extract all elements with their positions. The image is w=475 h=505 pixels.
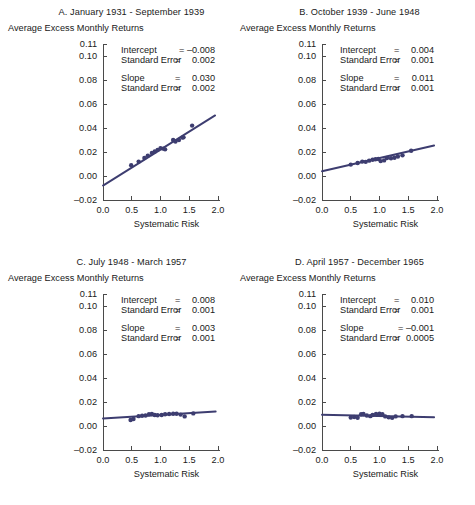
y-tick-label: 0.11 [299,39,316,49]
data-point [181,135,185,139]
annotation-equals: = [394,333,399,343]
y-tick-label: 0.06 [298,349,316,359]
annotation-value: 0.001 [192,333,215,343]
y-tick-label: 0.00 [79,171,97,181]
annotation-equals: = [175,333,180,343]
x-tick-label: 1.5 [402,205,415,215]
annotation-equals: = [394,305,399,315]
y-tick-label: –0.02 [293,195,316,205]
y-tick-label: –0.02 [74,195,97,205]
data-point [131,417,135,421]
annotation-value: 0.002 [192,83,215,93]
panel-c: C. July 1948 - March 1957 Average Excess… [0,250,237,502]
annotation-value: 0.030 [192,73,215,83]
data-point [129,163,133,167]
annotation-label: Slope [121,73,145,83]
annotation-label: Slope [340,323,364,333]
y-tick-label: 0.04 [79,373,97,383]
annotation-value: –0.008 [187,45,215,55]
annotation-value: 0.0005 [406,333,434,343]
data-point [349,162,353,166]
annotation-equals: = [175,55,180,65]
x-axis-title: Systematic Risk [134,469,200,479]
x-tick-label: 0.5 [125,455,138,465]
annotation-equals: = [394,55,399,65]
data-point [182,414,186,418]
annotation-value: 0.001 [411,305,434,315]
annotation-value: 0.001 [192,305,215,315]
y-tick-label: 0.04 [298,373,316,383]
data-point [146,153,150,157]
annotation-value: 0.008 [192,295,215,305]
annotation-label: Intercept [121,45,157,55]
annotation-equals: = [175,305,180,315]
annotation-label: Standard Error [121,83,181,93]
x-tick-label: 0.0 [316,205,329,215]
x-tick-label: 1.0 [154,205,167,215]
y-tick-label: 0.10 [298,301,316,311]
y-tick-label: 0.02 [79,397,97,407]
x-tick-label: 1.5 [183,205,196,215]
data-point [155,413,159,417]
x-tick-label: 1.0 [154,455,167,465]
data-point [191,411,195,415]
axis-spines [103,294,220,450]
annotation-equals: = [175,295,180,305]
y-tick-label: 0.06 [298,99,316,109]
data-point [163,147,167,151]
x-tick-label: 0.5 [344,205,357,215]
annotation-equals: = [175,83,180,93]
y-tick-label: 0.08 [79,325,97,335]
annotation-value: 0.001 [411,83,434,93]
x-tick-label: 2.0 [431,205,444,215]
y-tick-label: 0.00 [298,171,316,181]
panel-c-plot: 0.110.100.080.060.040.020.00–0.020.00.51… [0,250,237,502]
annotation-label: Standard Error [121,333,181,343]
annotation-label: Intercept [340,295,376,305]
annotation-value: 0.001 [411,55,434,65]
panel-d-plot: 0.110.100.080.060.040.020.00–0.020.00.51… [237,250,474,502]
y-tick-label: 0.10 [298,51,316,61]
annotation-value: 0.003 [192,323,215,333]
y-tick-label: 0.11 [299,289,316,299]
y-tick-label: 0.06 [79,349,97,359]
y-tick-label: 0.06 [79,99,97,109]
x-tick-label: 0.0 [97,455,110,465]
x-axis-title: Systematic Risk [134,219,200,229]
panel-b: B. October 1939 - June 1948 Average Exce… [237,0,474,252]
y-tick-label: 0.08 [298,75,316,85]
annotation-equals: = [179,45,184,55]
annotation-value: 0.011 [412,73,434,83]
data-point [167,412,171,416]
x-tick-label: 0.5 [125,205,138,215]
x-axis-title: Systematic Risk [353,469,419,479]
data-point [178,412,182,416]
y-tick-label: 0.04 [79,123,97,133]
annotation-value: 0.004 [411,45,434,55]
x-tick-label: 2.0 [212,455,225,465]
data-point [190,123,194,127]
y-tick-label: 0.00 [79,421,97,431]
annotation-value: 0.002 [192,55,215,65]
y-tick-label: 0.02 [79,147,97,157]
data-point [400,153,404,157]
x-axis-title: Systematic Risk [353,219,419,229]
y-tick-label: 0.11 [80,289,97,299]
y-tick-label: 0.08 [298,325,316,335]
x-tick-label: 1.0 [373,455,386,465]
data-point [355,416,359,420]
panel-a: A. January 1931 - September 1939 Average… [0,0,237,252]
annotation-equals: = [394,83,399,93]
data-point [355,161,359,165]
x-tick-label: 2.0 [212,205,225,215]
x-tick-label: 0.0 [97,205,110,215]
y-tick-label: –0.02 [74,445,97,455]
axis-spines [103,44,220,200]
annotation-label: Standard Error [340,55,400,65]
y-tick-label: 0.10 [79,51,97,61]
annotation-equals: = [175,73,180,83]
x-tick-label: 2.0 [431,455,444,465]
data-point [174,412,178,416]
annotation-label: Slope [121,323,145,333]
axis-spines [322,294,439,450]
